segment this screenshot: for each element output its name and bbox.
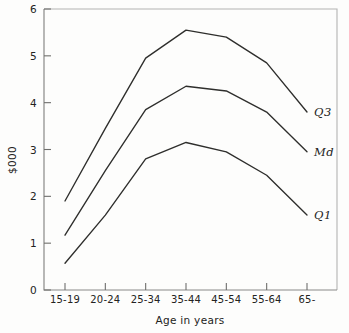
y-tick-label-6: 6 <box>30 3 37 15</box>
x-tick-label-35-44: 35-44 <box>171 294 201 305</box>
y-axis-ticks <box>44 9 51 290</box>
series-line-Q1 <box>65 142 307 263</box>
chart-figure: 0123456 15-1920-2425-3435-4445-5455-6465… <box>0 0 349 333</box>
y-tick-label-0: 0 <box>30 284 37 296</box>
x-tick-label-20-24: 20-24 <box>90 294 120 305</box>
plot-frame <box>44 9 337 290</box>
x-axis-ticks <box>65 283 307 290</box>
y-tick-label-1: 1 <box>30 237 37 249</box>
y-tick-label-5: 5 <box>30 50 37 62</box>
series-label-Q3: Q3 <box>314 105 332 119</box>
series-label-Q1: Q1 <box>314 208 332 222</box>
x-tick-label-65-: 65- <box>299 294 316 305</box>
y-tick-label-3: 3 <box>30 144 37 156</box>
x-tick-labels: 15-1920-2425-3435-4445-5455-6465- <box>50 294 316 305</box>
series-line-Md <box>65 86 307 235</box>
line-chart-canvas: 0123456 15-1920-2425-3435-4445-5455-6465… <box>0 0 349 333</box>
x-tick-label-15-19: 15-19 <box>50 294 80 305</box>
y-tick-label-4: 4 <box>30 97 37 109</box>
x-axis-title: Age in years <box>155 314 224 326</box>
y-axis-title: $000 <box>6 146 18 174</box>
frame-top-right-border <box>44 9 337 290</box>
y-tick-labels: 0123456 <box>30 3 37 296</box>
x-tick-label-45-54: 45-54 <box>211 294 241 305</box>
x-tick-label-55-64: 55-64 <box>252 294 282 305</box>
y-tick-label-2: 2 <box>30 190 37 202</box>
series-label-Md: Md <box>313 145 334 159</box>
data-series-group <box>65 30 307 263</box>
x-tick-label-25-34: 25-34 <box>131 294 161 305</box>
axis-lines <box>44 9 337 290</box>
series-end-labels: Q3MdQ1 <box>313 105 334 222</box>
